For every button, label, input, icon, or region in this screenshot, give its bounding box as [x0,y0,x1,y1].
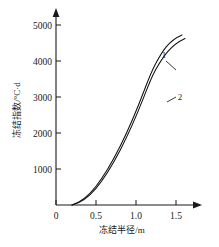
leader-line-series-2 [167,97,176,102]
x-axis-arrow-icon [193,202,202,209]
y-tick-labels: 1000 2000 3000 4000 5000 [33,21,52,175]
curve-label-1: 1 [162,50,167,60]
curve-annotations: 1 2 [162,50,183,102]
x-tick-label-0-5: 0.5 [90,211,102,221]
y-axis [53,8,60,205]
x-tick-label-0: 0 [54,211,59,221]
line-chart: 1000 2000 3000 4000 5000 0 0.5 1.0 1.5 冻… [0,0,219,247]
chart-figure: 1000 2000 3000 4000 5000 0 0.5 1.0 1.5 冻… [0,0,219,247]
y-tick-label-1000: 1000 [33,165,52,175]
y-axis-title: 冻结指数/°C·d [11,82,22,138]
y-tick-label-5000: 5000 [33,21,52,31]
x-tick-labels: 0 0.5 1.0 1.5 [54,211,183,221]
curve-series-1 [72,35,182,205]
y-tick-label-3000: 3000 [33,93,52,103]
x-axis-title: 冻结半径/m [99,224,145,235]
y-tick-label-4000: 4000 [33,57,52,67]
y-tick-marks [56,25,61,169]
y-axis-arrow-icon [53,8,60,17]
y-tick-label-2000: 2000 [33,129,52,139]
data-series-group [72,35,185,205]
x-tick-label-1-0: 1.0 [130,211,142,221]
curve-series-2 [72,39,185,206]
leader-line-series-1 [166,61,176,70]
x-tick-label-1-5: 1.5 [170,211,182,221]
curve-label-2: 2 [178,92,183,102]
